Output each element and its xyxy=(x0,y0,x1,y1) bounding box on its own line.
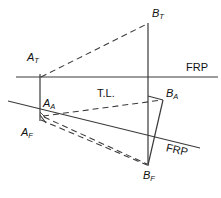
label-a-aux-subscript: A xyxy=(50,102,55,111)
diagram-canvas: AT BT AA BA AF BF FRP FRP T.L. xyxy=(0,0,221,198)
label-a-front: AF xyxy=(21,127,33,138)
segment-ba-bf xyxy=(148,100,163,165)
label-frp-upper: FRP xyxy=(186,62,208,73)
label-a-top-subscript: T xyxy=(34,56,39,65)
label-b-top-subscript: T xyxy=(159,12,164,21)
segment-af-bf xyxy=(41,120,147,165)
label-b-front-subscript: F xyxy=(150,174,155,183)
label-b-aux: BA xyxy=(166,88,178,99)
segment-bt-ba xyxy=(148,96,163,100)
label-b-top: BT xyxy=(152,8,164,19)
label-a-top: AT xyxy=(27,52,39,63)
label-true-length: T.L. xyxy=(97,88,115,99)
label-b-aux-subscript: A xyxy=(173,92,178,101)
segment-at-bt xyxy=(41,24,147,77)
segment-aa-bf xyxy=(44,117,147,164)
geometry-figure xyxy=(0,0,221,198)
label-a-front-subscript: F xyxy=(28,131,33,140)
label-b-front: BF xyxy=(143,170,155,181)
label-a-aux: AA xyxy=(43,98,55,109)
